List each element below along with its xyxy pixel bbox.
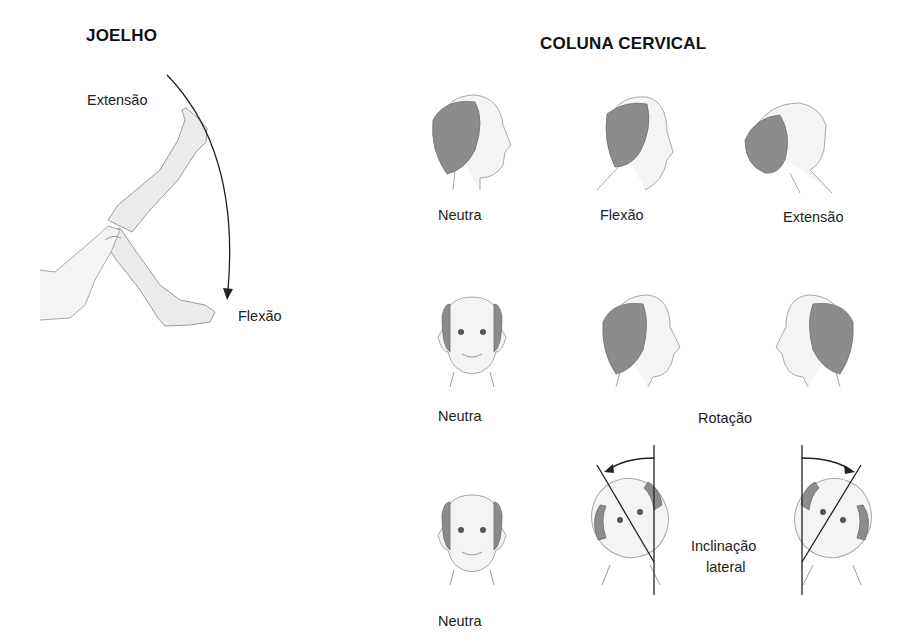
head-neutral-front-1 xyxy=(432,292,512,387)
head-flexion-profile xyxy=(585,92,680,192)
cervical-neutral-label-1: Neutra xyxy=(438,207,482,223)
cervical-title: COLUNA CERVICAL xyxy=(540,34,706,54)
cervical-neutral-label-3: Neutra xyxy=(438,613,482,629)
cervical-rotation-label: Rotação xyxy=(698,410,752,426)
head-lateral-tilt-right xyxy=(775,440,885,600)
head-neutral-front-2 xyxy=(432,490,512,585)
cervical-flexion-label: Flexão xyxy=(600,207,644,223)
knee-extension-label: Extensão xyxy=(87,92,147,108)
head-rotation-right xyxy=(598,292,688,387)
lateral-tilt-label-line2: lateral xyxy=(706,559,746,575)
head-extension-profile xyxy=(740,95,840,195)
cervical-extension-label: Extensão xyxy=(783,209,843,225)
head-neutral-profile xyxy=(425,90,515,185)
head-rotation-left xyxy=(768,292,858,387)
head-lateral-tilt-left xyxy=(580,440,690,600)
knee-flexion-label: Flexão xyxy=(238,308,282,324)
cervical-neutral-label-2: Neutra xyxy=(438,408,482,424)
lateral-tilt-label-line1: Inclinação xyxy=(691,538,756,554)
